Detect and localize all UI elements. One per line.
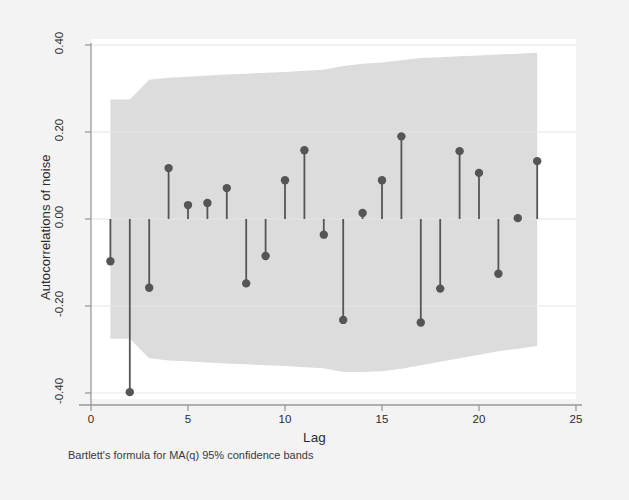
x-tick-label: 5 (168, 413, 208, 425)
x-tick-label: 15 (362, 413, 402, 425)
y-tick-label: -0.40 (53, 370, 65, 412)
x-tick-label: 20 (459, 413, 499, 425)
x-tick-label: 0 (71, 413, 111, 425)
y-tick-label: 0.20 (53, 109, 65, 151)
chart-footnote: Bartlett's formula for MA(q) 95% confide… (68, 449, 313, 461)
y-tick-label: 0.40 (53, 22, 65, 64)
y-tick-label: -0.20 (53, 283, 65, 325)
y-axis-label: Autocorrelations of noise (38, 154, 53, 300)
x-tick-label: 10 (265, 413, 305, 425)
y-tick-label: 0.00 (53, 196, 65, 238)
x-tick-label: 25 (556, 413, 596, 425)
x-axis-label: Lag (0, 430, 629, 445)
acf-plot-canvas (0, 0, 629, 500)
acf-chart-figure: Autocorrelations of noise Lag Bartlett's… (0, 0, 629, 500)
